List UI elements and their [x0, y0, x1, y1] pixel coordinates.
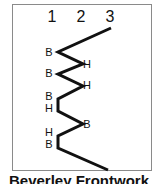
- place-label: B: [83, 118, 90, 130]
- place-label: H: [45, 102, 53, 114]
- method-line-path: [58, 28, 111, 170]
- column-label-3: 3: [106, 8, 115, 25]
- column-labels: 123: [48, 8, 115, 25]
- place-label: H: [45, 126, 53, 138]
- place-label: H: [83, 79, 91, 91]
- place-label: B: [45, 138, 52, 150]
- place-label: B: [45, 67, 52, 79]
- diagram-title: Beverley Frontwork: [0, 172, 158, 184]
- place-labels: BHBHBHBHB: [45, 46, 91, 150]
- column-label-1: 1: [48, 8, 57, 25]
- place-label: H: [83, 58, 91, 70]
- place-label: B: [45, 90, 52, 102]
- place-label: B: [45, 46, 52, 58]
- column-label-2: 2: [77, 8, 86, 25]
- method-line-diagram: 123 BHBHBHBHB: [0, 0, 158, 184]
